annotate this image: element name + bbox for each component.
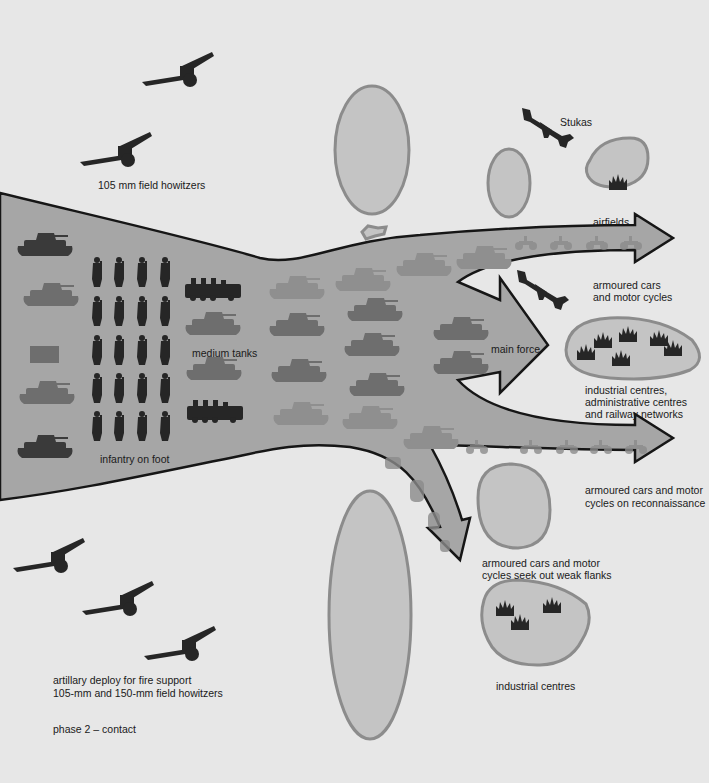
- label-artillery-1: artillary deploy for fire support: [53, 674, 191, 686]
- label-infantry: infantry on foot: [100, 453, 170, 465]
- label-armoured-cars-2: and motor cycles: [593, 291, 672, 303]
- howitzer-icon: [144, 626, 216, 661]
- target-zone-small-shape: [362, 226, 386, 239]
- blitzkrieg-phase2-diagram: 105 mm field howitzers Stukas airfields …: [0, 0, 709, 783]
- label-medium-tanks: medium tanks: [192, 347, 257, 359]
- target-zone-small-oval: [488, 149, 530, 217]
- vehicle-blob: [385, 457, 401, 469]
- label-industrial-1: industrial centres,: [585, 384, 667, 396]
- vehicle-blob: [428, 512, 440, 530]
- vehicle-blob: [440, 540, 450, 552]
- label-main-force: main force: [491, 343, 540, 355]
- main-advance-arrow: [0, 193, 673, 560]
- label-recon-1: armoured cars and motor: [585, 484, 703, 496]
- label-industrial-2: administrative centres: [585, 396, 687, 408]
- label-industrial-3: and railway networks: [585, 408, 683, 420]
- stuka-icon: [517, 270, 569, 310]
- target-zone-tall-oval: [329, 491, 411, 739]
- howitzer-icon: [80, 132, 152, 167]
- target-zone-recon-circle: [478, 464, 550, 548]
- label-stukas: Stukas: [560, 116, 592, 128]
- howitzer-icon: [142, 52, 214, 87]
- stuka-icon: [522, 108, 574, 148]
- howitzer-icon: [82, 581, 154, 616]
- label-armoured-cars-1: armoured cars: [593, 279, 661, 291]
- label-artillery-2: 105-mm and 150-mm field howitzers: [53, 687, 223, 699]
- label-howitzers-top: 105 mm field howitzers: [98, 179, 205, 191]
- howitzer-group-bottom: [13, 538, 216, 661]
- target-zone-industrial-bottom: [482, 580, 589, 665]
- label-airfields: airfields: [593, 216, 629, 228]
- howitzer-icon: [13, 538, 85, 573]
- label-phase: phase 2 – contact: [53, 723, 136, 735]
- label-recon-2: cycles on reconnaissance: [585, 497, 705, 509]
- label-flanks-2: cycles seek out weak flanks: [482, 569, 612, 581]
- vehicle-blob: [410, 480, 424, 502]
- supply-block-icon: [30, 346, 59, 363]
- label-industrial-bottom: industrial centres: [496, 680, 575, 692]
- howitzer-group-top: [80, 52, 214, 167]
- target-zone-top-oval: [335, 86, 409, 214]
- label-flanks-1: armoured cars and motor: [482, 557, 600, 569]
